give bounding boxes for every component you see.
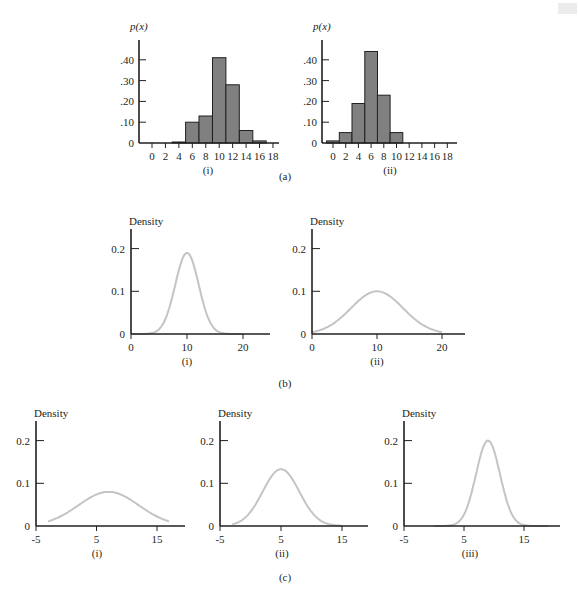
panel-label: (i) — [92, 547, 103, 560]
y-tick-label: .40 — [120, 54, 134, 66]
y-tick-label: 0.2 — [111, 243, 125, 255]
y-tick-label: 0 — [312, 137, 318, 149]
x-tick-label: 10 — [182, 341, 194, 353]
histogram-bar — [365, 52, 378, 144]
density-curve — [131, 253, 243, 334]
panel-label: (ii) — [383, 164, 397, 177]
y-tick-label: 0.2 — [292, 243, 306, 255]
histogram-bar — [352, 104, 365, 144]
y-axis-label: Density — [402, 407, 437, 419]
panel-label: (ii) — [275, 547, 289, 560]
density-curve — [434, 441, 548, 526]
y-tick-label: 0 — [120, 328, 126, 340]
x-tick-label: 20 — [437, 341, 449, 353]
section-label-b: (b) — [279, 377, 292, 390]
x-tick-label: 2 — [343, 150, 349, 162]
y-tick-label: 0.2 — [16, 435, 30, 447]
x-tick-label: 5 — [461, 533, 467, 545]
density-chart-b-ii: Density00.10.201020(ii) — [292, 215, 465, 368]
x-tick-label: 16 — [429, 150, 441, 162]
figure-canvas: (a) (b) (c) p(x)0.10.20.30.4002468101214… — [0, 0, 579, 595]
x-tick-label: 0 — [309, 341, 315, 353]
panel-label: (ii) — [370, 355, 384, 368]
histogram-bar — [186, 122, 199, 143]
density-chart-c-iii: Density00.10.2-5515(iii) — [384, 407, 560, 560]
density-curve — [232, 469, 342, 526]
x-tick-label: -5 — [31, 533, 41, 545]
density-chart-c-ii: Density00.10.2-5515(ii) — [200, 407, 368, 560]
density-curve — [312, 291, 442, 332]
panel-label: (i) — [203, 164, 214, 177]
y-tick-label: .10 — [120, 116, 134, 128]
x-tick-label: 2 — [163, 150, 169, 162]
x-tick-label: 14 — [416, 150, 428, 162]
x-tick-label: 20 — [238, 341, 250, 353]
x-tick-label: 10 — [391, 150, 403, 162]
panel-label: (i) — [182, 355, 193, 368]
y-tick-label: 0.1 — [16, 477, 30, 489]
y-tick-label: .40 — [303, 54, 317, 66]
density-chart-b-i: Density00.10.201020(i) — [111, 215, 270, 368]
section-label-a: (a) — [279, 170, 292, 183]
x-tick-label: 8 — [203, 150, 209, 162]
x-tick-label: 0 — [330, 150, 336, 162]
x-tick-label: 0 — [149, 150, 155, 162]
x-tick-label: 12 — [227, 150, 238, 162]
y-tick-label: 0.1 — [111, 285, 125, 297]
y-tick-label: .30 — [303, 75, 317, 87]
x-tick-label: 18 — [442, 150, 454, 162]
y-tick-label: 0.2 — [384, 435, 398, 447]
y-tick-label: .30 — [120, 75, 134, 87]
histogram-a-ii: p(x)0.10.20.30.40024681012141618(ii) — [303, 20, 457, 177]
x-tick-label: 4 — [176, 150, 182, 162]
y-tick-label: .20 — [303, 95, 317, 107]
x-tick-label: -5 — [215, 533, 225, 545]
y-tick-label: .10 — [303, 116, 317, 128]
x-tick-label: 8 — [381, 150, 387, 162]
x-tick-label: 15 — [337, 533, 349, 545]
x-tick-label: 15 — [152, 533, 164, 545]
x-tick-label: 10 — [372, 341, 384, 353]
histogram-bar — [390, 133, 403, 143]
histogram-bar — [199, 116, 212, 143]
y-tick-label: 0 — [209, 520, 215, 532]
y-axis-label: Density — [34, 407, 69, 419]
x-tick-label: 15 — [519, 533, 531, 545]
x-tick-label: 14 — [241, 150, 253, 162]
y-tick-label: 0.1 — [384, 477, 398, 489]
histogram-bar — [239, 131, 252, 144]
histogram-bar — [377, 95, 390, 143]
x-tick-label: 12 — [404, 150, 415, 162]
y-tick-label: 0.1 — [200, 477, 214, 489]
density-curve — [48, 492, 169, 522]
y-tick-label: 0.1 — [292, 285, 306, 297]
y-axis-label: Density — [218, 407, 253, 419]
histogram-bar — [226, 85, 239, 143]
y-tick-label: 0 — [301, 328, 307, 340]
y-axis-label: p(x) — [312, 20, 331, 33]
density-chart-c-i: Density00.10.2-5515(i) — [16, 407, 185, 560]
x-tick-label: -5 — [399, 533, 409, 545]
x-tick-label: 6 — [368, 150, 374, 162]
x-tick-label: 10 — [214, 150, 226, 162]
y-axis-label: Density — [129, 215, 164, 227]
x-tick-label: 18 — [267, 150, 279, 162]
y-tick-label: .20 — [120, 95, 134, 107]
x-tick-label: 5 — [94, 533, 100, 545]
y-tick-label: 0 — [393, 520, 399, 532]
x-tick-label: 0 — [128, 341, 134, 353]
y-tick-label: 0.2 — [200, 435, 214, 447]
y-tick-label: 0 — [129, 137, 135, 149]
x-tick-label: 4 — [356, 150, 362, 162]
panel-label: (iii) — [462, 547, 479, 560]
histogram-bar — [213, 58, 226, 143]
y-axis-label: Density — [310, 215, 345, 227]
x-tick-label: 16 — [254, 150, 266, 162]
histogram-bar — [339, 133, 352, 143]
y-tick-label: 0 — [25, 520, 31, 532]
x-tick-label: 5 — [278, 533, 284, 545]
x-tick-label: 6 — [190, 150, 196, 162]
histogram-a-i: p(x)0.10.20.30.40024681012141618(i) — [120, 20, 279, 177]
y-axis-label: p(x) — [129, 20, 148, 33]
section-label-c: (c) — [279, 571, 292, 584]
